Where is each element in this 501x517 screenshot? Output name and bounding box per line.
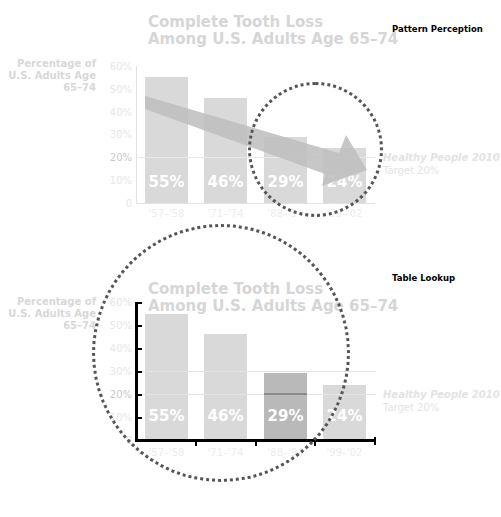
target-annotation: Healthy People 2010 Target 20% bbox=[383, 388, 500, 414]
x-tick-label: '99–'02 bbox=[318, 448, 371, 458]
dotted-circle-highlight bbox=[248, 82, 383, 217]
dotted-circle-highlight bbox=[92, 224, 350, 482]
x-tick-mark bbox=[314, 442, 316, 446]
y-axis-label: Percentage of U.S. Adults Age 65–74 bbox=[8, 296, 96, 332]
x-tick-mark bbox=[374, 437, 376, 445]
section-label: Table Lookup bbox=[392, 273, 455, 283]
